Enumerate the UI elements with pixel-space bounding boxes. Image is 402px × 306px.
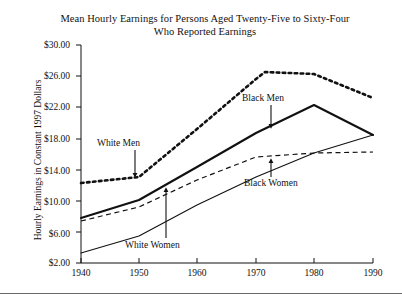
- series-line-black-men: [81, 105, 373, 218]
- y-axis-ticks: [76, 45, 81, 263]
- plot-area: [0, 0, 402, 306]
- series-line-black-women: [81, 152, 373, 221]
- bottom-divider: [0, 293, 402, 294]
- x-axis-ticks: [81, 258, 373, 263]
- chart-figure: Mean Hourly Earnings for Persons Aged Tw…: [0, 0, 402, 306]
- series-line-white-men: [81, 72, 373, 183]
